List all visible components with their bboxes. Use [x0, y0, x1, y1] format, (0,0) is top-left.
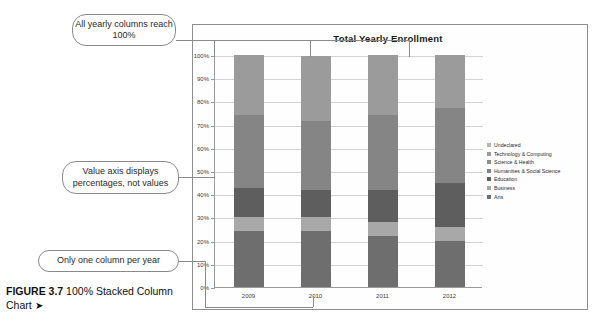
segment-business[interactable]	[435, 227, 465, 241]
column-2010[interactable]: 2010	[301, 56, 331, 287]
legend-item[interactable]: Business	[487, 185, 585, 191]
callout-2-leader	[179, 177, 215, 178]
callout-one-column-per-year: Only one column per year	[38, 250, 179, 272]
legend-swatch-icon	[487, 186, 491, 190]
y-axis-tick	[211, 218, 215, 219]
legend-label: Science & Health	[494, 159, 534, 165]
legend-item[interactable]: Education	[487, 176, 585, 182]
y-axis-tick	[211, 242, 215, 243]
segment-undeclared[interactable]	[301, 56, 331, 75]
y-axis-tick	[211, 265, 215, 266]
legend-item[interactable]: Arts	[487, 194, 585, 200]
segment-arts[interactable]	[301, 231, 331, 287]
segment-education[interactable]	[301, 190, 331, 218]
segment-business[interactable]	[234, 217, 264, 231]
legend-swatch-icon	[487, 152, 491, 156]
legend-label: Undeclared	[494, 142, 521, 148]
x-axis-label-2011: 2011	[376, 293, 389, 299]
callout-1-leader-mid	[310, 40, 311, 57]
callout-3-text: Only one column per year	[57, 255, 160, 266]
y-axis-label: 20%	[197, 239, 209, 245]
figure-label: FIGURE 3.7	[6, 285, 63, 297]
legend-label: Arts	[494, 194, 503, 200]
segment-education[interactable]	[435, 183, 465, 227]
y-axis-label: 10%	[197, 262, 209, 268]
callout-1-bracket	[214, 40, 410, 57]
legend-label: Humanities & Social Science	[494, 168, 560, 174]
legend-item[interactable]: Undeclared	[487, 142, 585, 148]
column-2011[interactable]: 2011	[368, 56, 398, 287]
callout-1-leader	[176, 40, 214, 41]
segment-undeclared[interactable]	[435, 55, 465, 71]
segment-humanities-social-science[interactable]	[301, 121, 331, 189]
callout-all-columns-reach-100: All yearly columns reach 100%	[72, 14, 176, 46]
x-axis-label-2010: 2010	[309, 293, 322, 299]
x-axis-label-2009: 2009	[242, 293, 255, 299]
y-axis-tick	[211, 149, 215, 150]
legend-label: Technology & Computing	[494, 151, 552, 157]
segment-technology-computing[interactable]	[234, 74, 264, 95]
segment-business[interactable]	[301, 217, 331, 231]
callout-value-axis-percentages: Value axis displays percentages, not val…	[62, 161, 179, 194]
segment-education[interactable]	[234, 188, 264, 217]
legend-item[interactable]: Technology & Computing	[487, 151, 585, 157]
y-axis-tick	[211, 102, 215, 103]
figure-page: Total Yearly Enrollment 100%90%80%70%60%…	[0, 0, 594, 328]
caption-arrow-icon: ➤	[35, 300, 43, 311]
segment-humanities-social-science[interactable]	[234, 115, 264, 188]
y-axis-label: 30%	[197, 215, 209, 221]
callout-3-leader-v2	[313, 296, 314, 307]
y-axis-tick	[211, 195, 215, 196]
legend-swatch-icon	[487, 169, 491, 173]
column-2012[interactable]: 2012	[435, 56, 465, 287]
segment-arts[interactable]	[368, 236, 398, 287]
legend-label: Education	[494, 176, 517, 182]
segment-technology-computing[interactable]	[301, 75, 331, 98]
callout-3-leader-h2	[205, 307, 313, 308]
y-axis-label: 50%	[197, 169, 209, 175]
callout-1-text: All yearly columns reach 100%	[73, 19, 175, 42]
legend-item[interactable]: Humanities & Social Science	[487, 168, 585, 174]
y-axis-tick	[211, 126, 215, 127]
segment-education[interactable]	[368, 190, 398, 222]
legend-swatch-icon	[487, 195, 491, 199]
column-2009[interactable]: 2009	[234, 56, 264, 287]
y-axis-label: 60%	[197, 146, 209, 152]
plot-area: 100%90%80%70%60%50%40%30%20%10%0%2009201…	[214, 56, 482, 288]
segment-humanities-social-science[interactable]	[368, 115, 398, 189]
legend-swatch-icon	[487, 160, 491, 164]
legend-label: Business	[494, 185, 515, 191]
y-axis-label: 80%	[197, 99, 209, 105]
chart-legend: UndeclaredTechnology & ComputingScience …	[487, 142, 585, 202]
segment-technology-computing[interactable]	[368, 74, 398, 95]
segment-arts[interactable]	[234, 231, 264, 287]
segment-technology-computing[interactable]	[435, 71, 465, 90]
x-axis-label-2012: 2012	[443, 293, 456, 299]
segment-science-health[interactable]	[234, 94, 264, 115]
y-axis-label: 40%	[197, 192, 209, 198]
segment-business[interactable]	[368, 222, 398, 236]
segment-humanities-social-science[interactable]	[435, 108, 465, 182]
callout-3-leader-h	[179, 261, 205, 262]
segment-science-health[interactable]	[368, 94, 398, 115]
y-axis-label: 100%	[194, 53, 209, 59]
segment-arts[interactable]	[435, 241, 465, 287]
segment-undeclared[interactable]	[234, 55, 264, 74]
segment-science-health[interactable]	[435, 90, 465, 109]
legend-swatch-icon	[487, 143, 491, 147]
y-axis-tick	[211, 79, 215, 80]
y-axis-label: 90%	[197, 76, 209, 82]
legend-item[interactable]: Science & Health	[487, 159, 585, 165]
y-axis-tick	[211, 172, 215, 173]
segment-science-health[interactable]	[301, 98, 331, 121]
callout-3-leader-v	[205, 261, 206, 307]
callout-2-text: Value axis displays percentages, not val…	[63, 166, 178, 189]
legend-swatch-icon	[487, 177, 491, 181]
segment-undeclared[interactable]	[368, 55, 398, 74]
figure-caption: FIGURE 3.7 100% Stacked Column Chart ➤	[6, 284, 186, 313]
y-axis-tick	[211, 288, 215, 289]
y-axis-label: 70%	[197, 123, 209, 129]
